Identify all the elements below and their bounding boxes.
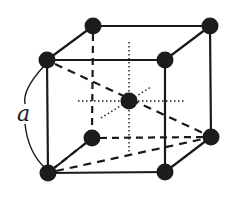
edge-top-left-depth xyxy=(47,26,93,60)
bcc-unit-cell-diagram: a xyxy=(0,0,238,208)
dimension-arc xyxy=(25,66,44,104)
atom-back-bottom-right xyxy=(203,129,220,146)
edge-front-left xyxy=(47,60,48,173)
atom-front-bottom-left xyxy=(40,165,57,182)
atom-front-top-left xyxy=(39,52,56,69)
edge-front-bottom xyxy=(48,172,165,173)
lattice-constant-label: a xyxy=(17,101,30,126)
dimension-arc-lower xyxy=(25,124,45,168)
hidden-edge-back-left-vertical xyxy=(92,34,93,130)
atom-back-top-right xyxy=(202,18,219,35)
hidden-edge-back-bottom xyxy=(100,137,203,138)
atom-center xyxy=(121,93,138,110)
edge-back-right xyxy=(210,26,211,137)
atom-back-top-left xyxy=(85,18,102,35)
atom-back-bottom-left xyxy=(84,130,101,147)
atom-front-bottom-right xyxy=(157,164,174,181)
edge-bottom-right-depth xyxy=(165,137,211,172)
atom-front-top-right xyxy=(157,52,174,69)
